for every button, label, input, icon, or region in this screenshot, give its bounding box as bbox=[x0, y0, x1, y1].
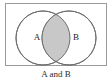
venn-diagram-figure: A B A and B bbox=[0, 0, 112, 83]
set-label-a: A bbox=[34, 32, 41, 42]
figure-caption: A and B bbox=[41, 69, 71, 79]
venn-diagram-canvas: A B A and B bbox=[0, 0, 112, 83]
set-label-b: B bbox=[73, 32, 79, 42]
